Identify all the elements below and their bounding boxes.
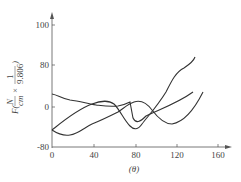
line-chart: 100 80 0 -80 0 40 80 120 160 (θ) F( N cm… bbox=[0, 0, 241, 182]
svg-text:): ) bbox=[10, 61, 20, 65]
x-axis-label: (θ) bbox=[129, 164, 139, 174]
x-tick-label: 0 bbox=[50, 150, 55, 160]
y-axis-label: F( N cm × 1 9.806 ) bbox=[5, 61, 25, 115]
y-axis-arrow-icon bbox=[50, 12, 54, 19]
x-tick-label: 80 bbox=[132, 150, 142, 160]
x-tick-label: 40 bbox=[90, 150, 100, 160]
svg-text:×: × bbox=[10, 88, 20, 93]
x-ticks: 0 40 80 120 160 bbox=[50, 144, 226, 160]
x-axis-arrow-icon bbox=[225, 145, 232, 149]
x-tick-label: 160 bbox=[211, 150, 225, 160]
y-tick-label: 80 bbox=[40, 60, 50, 70]
y-tick-label: -80 bbox=[37, 142, 49, 152]
svg-text:cm: cm bbox=[15, 95, 25, 106]
series-curve-2 bbox=[52, 57, 195, 130]
x-tick-label: 120 bbox=[170, 150, 184, 160]
y-tick-label: 100 bbox=[36, 20, 50, 30]
svg-text:1: 1 bbox=[5, 75, 15, 80]
svg-text:N: N bbox=[5, 98, 15, 106]
y-tick-label: 0 bbox=[45, 102, 50, 112]
svg-text:9.806: 9.806 bbox=[15, 63, 25, 84]
series-curve-1 bbox=[52, 92, 193, 122]
